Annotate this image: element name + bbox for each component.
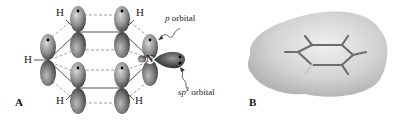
h-atom-top-left: H [56,6,64,18]
h-atom-top-right: H [136,6,144,18]
h-atom-left: H [24,53,32,65]
sp2-lone-pair-orbital [154,52,185,68]
sigma-bonds [34,20,150,100]
panel-a-orbital-diagram: H H H H H N p orbital sp2 orbital A [0,0,230,123]
pi-overlap-dashes [48,15,150,103]
sp2-back-lobe [138,56,146,63]
nitrogen-atom-label: N [146,53,153,64]
sp2-orbital-label-italic: sp [178,87,186,97]
pyridine-orbital-illustration [0,0,230,123]
p-orbital-label: p orbital [165,13,195,23]
p-orbital-pointer [160,28,180,38]
h-atom-bottom-left: H [56,94,64,106]
p-orbital-label-text: orbital [170,13,196,23]
electron-density-surface [248,11,387,96]
sp2-orbital-label-text: orbital [189,87,215,97]
panel-label-b: B [249,96,256,108]
sp2-orbital-label: sp2 orbital [178,86,215,97]
panel-label-a: A [15,96,23,108]
h-atom-bottom-right: H [135,94,143,106]
panel-b-electrostatic-potential-map: B [230,0,400,123]
